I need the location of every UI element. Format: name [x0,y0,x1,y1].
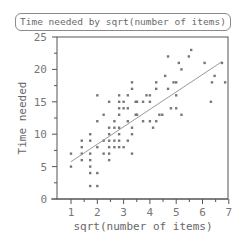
data-point [96,94,98,96]
data-point [118,133,120,135]
data-point [158,114,160,116]
data-point [210,101,212,103]
data-point [164,75,166,77]
data-point [89,152,91,154]
data-point [96,172,98,174]
data-point [113,127,115,129]
ticks: 05101520251234567 [34,31,232,219]
x-tick-label: 7 [225,206,232,219]
data-point [175,107,177,109]
data-point [108,127,110,129]
axes [51,37,228,199]
data-point [108,159,110,161]
data-point [142,120,144,122]
data-point [136,114,138,116]
data-point [170,107,172,109]
data-point [113,139,115,141]
data-point [224,81,226,83]
x-tick-label: 1 [68,206,75,219]
data-point [131,88,133,90]
data-point [131,133,133,135]
data-point [127,107,129,109]
data-point [122,107,124,109]
data-point [118,107,120,109]
x-tick-label: 2 [94,206,101,219]
data-point [155,81,157,83]
x-tick-label: 6 [199,206,206,219]
data-point [131,81,133,83]
data-point [108,133,110,135]
data-point [175,94,177,96]
data-point [102,152,104,154]
data-point [178,62,180,64]
data-point [70,165,72,167]
data-point [152,127,154,129]
y-tick-label: 15 [34,96,47,109]
data-point [89,139,91,141]
x-tick-label: 3 [120,206,127,219]
data-point [96,185,98,187]
data-point [127,120,129,122]
y-tick-label: 25 [34,31,47,44]
data-point [118,114,120,116]
scatter-chart: 05101520251234567 sqrt(number of items) … [0,0,243,246]
y-tick-label: 5 [40,161,47,174]
x-tick-label: 5 [173,206,180,219]
plot-frame [57,37,228,199]
data-point [122,146,124,148]
data-point [211,81,213,83]
data-point [89,133,91,135]
data-point [113,120,115,122]
y-tick-label: 20 [34,63,47,76]
data-point [172,81,174,83]
data-point [167,55,169,57]
data-point [155,120,157,122]
y-axis-label: Time needed [16,82,29,155]
x-axis-label: sqrt(number of items) [73,220,212,233]
data-point [167,88,169,90]
data-point [136,101,138,103]
data-point [149,101,151,103]
data-point [70,152,72,154]
data-point [96,120,98,122]
data-point [113,146,115,148]
data-point [127,94,129,96]
data-point [118,101,120,103]
data-point [127,139,129,141]
data-point [203,62,205,64]
data-point [89,165,91,167]
data-point [149,120,151,122]
y-tick-label: 0 [40,193,47,206]
data-point [180,114,182,116]
data-point [108,139,110,141]
data-point [155,88,157,90]
data-points [70,49,227,187]
data-point [89,185,91,187]
data-point [96,146,98,148]
data-point [213,75,215,77]
data-point [118,139,120,141]
data-point [188,55,190,57]
data-point [108,146,110,148]
data-point [118,146,120,148]
data-point [131,152,133,154]
data-point [145,94,147,96]
data-point [118,127,120,129]
data-point [122,101,124,103]
data-point [180,68,182,70]
data-point [89,172,91,174]
data-point [108,101,110,103]
data-point [149,94,151,96]
data-point [81,146,83,148]
data-point [81,159,83,161]
data-point [81,139,83,141]
data-point [175,81,177,83]
data-point [89,159,91,161]
data-point [131,127,133,129]
data-point [161,114,163,116]
y-tick-label: 10 [34,128,47,141]
data-point [142,101,144,103]
data-point [118,94,120,96]
x-tick-label: 4 [147,206,154,219]
data-point [108,152,110,154]
